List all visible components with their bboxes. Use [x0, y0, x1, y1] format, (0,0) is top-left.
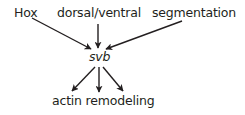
node-svb: svb [89, 51, 110, 64]
arrow-svb-to-actin-left [72, 67, 95, 91]
pathway-diagram: Hox dorsal/ventral segmentation svb acti… [0, 0, 245, 115]
arrow-seg-to-svb [106, 21, 182, 49]
node-actin-remodeling: actin remodeling [52, 95, 154, 108]
node-segmentation: segmentation [152, 7, 236, 20]
arrow-hox-to-svb [32, 18, 91, 49]
node-hox: Hox [14, 7, 37, 20]
node-dorsal-ventral: dorsal/ventral [57, 7, 141, 20]
arrow-svb-to-actin-right [103, 67, 123, 91]
